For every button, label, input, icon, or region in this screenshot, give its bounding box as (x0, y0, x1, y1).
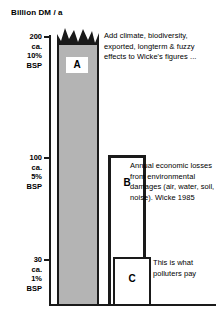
annotation-bar-a-line3: effects to Wicke's figures ... (104, 52, 196, 63)
y-axis-label-200: 200 ca. 10% BSP (2, 32, 42, 70)
annotation-bar-c-line1: This is what (153, 258, 196, 269)
y-axis-label-100: 100 ca. 5% BSP (2, 153, 42, 191)
x-axis-baseline (49, 304, 216, 306)
annotation-bar-b-line2: from environmental (130, 172, 214, 183)
annotation-bar-b-line1: Annual economic losses (130, 161, 214, 172)
y-axis-label-100-percent: 5% (2, 172, 42, 182)
y-axis-label-30-percent: 1% (2, 274, 42, 284)
y-axis-label-30-unit: BSP (2, 284, 42, 294)
y-axis-label-200-value: 200 (2, 32, 42, 42)
annotation-bar-c: This is what polluters pay (153, 258, 196, 279)
y-axis-label-100-ca: ca. (2, 163, 42, 173)
y-axis-label-100-unit: BSP (2, 182, 42, 192)
y-axis-label-30: 30 ca. 1% BSP (2, 255, 42, 293)
y-axis-tick-30 (44, 259, 51, 261)
annotation-bar-b: Annual economic losses from environmenta… (130, 161, 214, 203)
annotation-bar-c-line2: polluters pay (153, 269, 196, 280)
bar-a-jagged-top-icon (57, 27, 99, 45)
annotation-bar-b-line4: noise). Wicke 1985 (130, 193, 214, 204)
y-axis-tick-200 (44, 36, 51, 38)
annotation-bar-a: Add climate, biodiversity, exported, lon… (104, 31, 196, 63)
annotation-bar-a-line2: exported, longterm & fuzzy (104, 42, 196, 53)
y-axis-label-200-unit: BSP (2, 61, 42, 71)
bar-a-label: A (66, 57, 88, 73)
bar-a (57, 42, 99, 305)
y-axis-label-100-value: 100 (2, 153, 42, 163)
bar-c-label: C (122, 272, 142, 286)
y-axis-unit-label: Billion DM / a (11, 8, 63, 17)
annotation-bar-a-line1: Add climate, biodiversity, (104, 31, 196, 42)
y-axis-tick-100 (44, 157, 51, 159)
y-axis-label-30-value: 30 (2, 255, 42, 265)
y-axis-label-30-ca: ca. (2, 265, 42, 275)
y-axis-label-200-ca: ca. (2, 42, 42, 52)
y-axis-line (49, 35, 51, 305)
bar-chart: Billion DM / a 200 ca. 10% BSP 100 ca. 5… (0, 0, 224, 323)
y-axis-label-200-percent: 10% (2, 51, 42, 61)
annotation-bar-b-line3: damages (air, water, soil, (130, 182, 214, 193)
